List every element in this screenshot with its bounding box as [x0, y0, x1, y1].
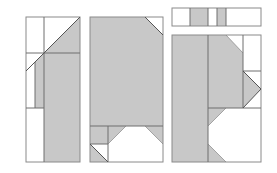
panel-middle-shaded-body: [90, 17, 163, 126]
strip-shaded-1: [190, 8, 208, 26]
panel-left-shaded-column: [44, 53, 80, 162]
panel-right-shaded-column: [172, 35, 208, 162]
panel-middle-shaded-cell: [90, 126, 108, 144]
cut-pattern-diagram: [0, 0, 277, 173]
strip-shaded-2: [217, 8, 226, 26]
